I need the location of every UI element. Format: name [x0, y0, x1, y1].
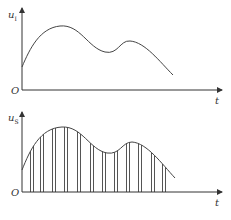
top-origin-label: O	[11, 85, 19, 96]
top-plot: uI O t	[8, 8, 222, 106]
bottom-y-label: uS	[8, 112, 19, 125]
top-y-label: uI	[8, 9, 17, 22]
sampled-envelope-curve	[22, 127, 175, 178]
sample-pulses	[31, 127, 166, 192]
input-signal-curve	[22, 26, 173, 75]
bottom-plot: uS O t	[8, 112, 222, 208]
diagram-canvas: uI O t uS O t	[0, 0, 231, 220]
bottom-x-label: t	[215, 197, 220, 208]
bottom-origin-label: O	[11, 187, 19, 198]
sampling-diagram: uI O t uS O t	[0, 0, 231, 220]
top-x-label: t	[215, 95, 220, 106]
